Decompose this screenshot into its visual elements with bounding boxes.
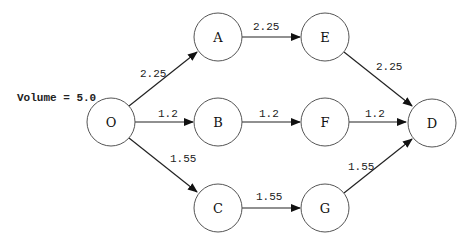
node-b: B bbox=[194, 98, 242, 146]
node-label-b: B bbox=[213, 115, 223, 130]
node-label-d: D bbox=[427, 116, 437, 131]
node-o: O bbox=[87, 98, 135, 146]
edge-b-f: 1.2 bbox=[242, 108, 300, 122]
node-label-a: A bbox=[212, 30, 223, 45]
node-label-e: E bbox=[320, 30, 330, 45]
node-label-g: G bbox=[320, 201, 330, 216]
flow-network-diagram: Volume = 5.0 2.25 1.2 1.55 2.25 1.2 1.55 bbox=[0, 0, 471, 243]
edge-c-g: 1.55 bbox=[242, 191, 300, 208]
edge-label-e-d: 2.25 bbox=[376, 61, 402, 73]
edge-o-b: 1.2 bbox=[135, 108, 193, 122]
edge-a-e: 2.25 bbox=[242, 21, 300, 37]
edge-label-f-d: 1.2 bbox=[365, 108, 385, 120]
node-f: F bbox=[301, 98, 349, 146]
edge-label-o-c: 1.55 bbox=[170, 153, 196, 165]
node-label-c: C bbox=[213, 201, 223, 216]
edge-f-d: 1.2 bbox=[349, 108, 406, 122]
node-a: A bbox=[194, 13, 242, 61]
node-d: D bbox=[408, 99, 456, 147]
edge-label-o-a: 2.25 bbox=[140, 68, 166, 80]
edge-label-c-g: 1.55 bbox=[256, 191, 282, 203]
edge-label-o-b: 1.2 bbox=[158, 108, 178, 120]
node-label-o: O bbox=[106, 115, 117, 130]
edge-label-g-d: 1.55 bbox=[348, 161, 374, 173]
edge-g-d: 1.55 bbox=[344, 139, 412, 193]
node-g: G bbox=[301, 184, 349, 232]
edge-o-a: 2.25 bbox=[129, 52, 197, 106]
node-c: C bbox=[194, 184, 242, 232]
diagram-svg: Volume = 5.0 2.25 1.2 1.55 2.25 1.2 1.55 bbox=[0, 0, 471, 243]
node-e: E bbox=[301, 13, 349, 61]
node-label-f: F bbox=[320, 115, 329, 130]
edge-label-a-e: 2.25 bbox=[253, 21, 279, 33]
edge-e-d: 2.25 bbox=[344, 52, 412, 106]
edge-o-c: 1.55 bbox=[129, 138, 197, 192]
arrow-icon bbox=[129, 138, 197, 192]
volume-label: Volume = 5.0 bbox=[17, 92, 96, 104]
edge-label-b-f: 1.2 bbox=[259, 108, 279, 120]
